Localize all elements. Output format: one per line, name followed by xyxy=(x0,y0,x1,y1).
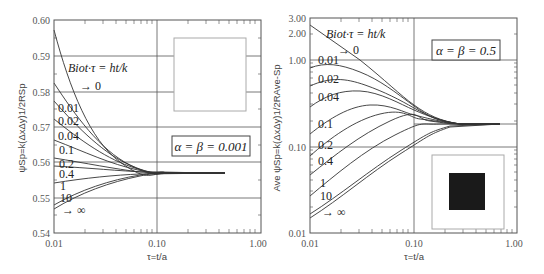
right-curve-label: 10 xyxy=(320,189,332,203)
left-xtick-label: 0.10 xyxy=(148,238,166,249)
right-arrow-label-inf: → ∞ xyxy=(322,205,346,219)
right-curve-labels: 0.01 0.02 0.04 0.1 0.2 0.4 1 10 → ∞ xyxy=(318,53,346,219)
left-x-tick-labels: 0.01 0.10 1.00 xyxy=(45,238,267,249)
right-xtick-label: 0.01 xyxy=(301,238,319,249)
right-arrow-label-0: → 0 xyxy=(338,43,359,57)
right-curve-label: 0.1 xyxy=(318,117,333,131)
left-ytick-label: 0.55 xyxy=(33,193,51,204)
left-ytick-label: 0.58 xyxy=(33,87,51,98)
right-curve-label: 1 xyxy=(320,176,326,190)
left-arrow-label-0: → 0 xyxy=(80,79,101,93)
right-curve-label: 0.04 xyxy=(318,90,339,104)
left-curve-label: 0.04 xyxy=(58,129,79,143)
left-x-axis-label: τ=t/a xyxy=(147,251,168,262)
left-ytick-label: 0.56 xyxy=(33,157,51,168)
right-inset-filled-square xyxy=(449,173,485,210)
right-x-tick-labels: 0.01 0.10 1.00 xyxy=(301,238,523,249)
right-ytick-label: 2.00 xyxy=(289,28,307,39)
left-curve-label: 0.1 xyxy=(59,143,74,157)
left-curve-label: 0.01 xyxy=(58,101,79,115)
right-x-axis-label: τ=t/a xyxy=(404,251,425,262)
left-ytick-label: 0.59 xyxy=(33,51,51,62)
right-curve-label: 0.02 xyxy=(318,72,339,86)
right-curve-0.1 xyxy=(310,105,500,134)
right-curve-label: 0.4 xyxy=(318,154,333,168)
right-xtick-label: 0.10 xyxy=(405,238,423,249)
right-curve-label: 0.2 xyxy=(318,138,333,152)
right-y-tick-labels: 3.00 2.00 1.00 0.10 0.01 xyxy=(289,13,307,239)
right-curve-0.2 xyxy=(310,112,500,156)
right-ytick-label: 1.00 xyxy=(289,55,307,66)
left-y-axis-label: ψSp=k(ΔxΔy)1/2RSp xyxy=(16,84,27,173)
left-y-tick-labels: 0.60 0.59 0.58 0.57 0.56 0.55 0.54 xyxy=(33,15,51,239)
right-xtick-label: 1.00 xyxy=(505,238,523,249)
left-param-text: α = β = 0.001 xyxy=(174,139,247,154)
right-y-axis-label: Ave ψSp=k(ΔxΔy)1/2RAve-Sp xyxy=(271,64,282,191)
right-biot-annotation: Biot·τ = ht/k xyxy=(326,27,386,41)
left-xtick-label: 0.01 xyxy=(45,238,63,249)
left-inset-square xyxy=(174,38,246,111)
left-curve-labels: 0.01 0.02 0.04 0.1 0.2 0.4 1 10 → ∞ xyxy=(58,101,86,217)
left-biot-annotation: Biot·τ = ht/k xyxy=(68,61,128,75)
figure: 0.60 0.59 0.58 0.57 0.56 0.55 0.54 0.01 … xyxy=(0,0,544,274)
left-xtick-label: 1.00 xyxy=(249,238,267,249)
right-ytick-label: 0.10 xyxy=(289,142,307,153)
right-chart: 3.00 2.00 1.00 0.10 0.01 0.01 0.10 1.00 … xyxy=(271,13,523,262)
left-curve-10 xyxy=(54,172,225,205)
left-arrow-label-inf: → ∞ xyxy=(62,203,86,217)
right-curve-label: 0.01 xyxy=(318,53,339,67)
left-ytick-label: 0.57 xyxy=(33,122,51,133)
left-curve-label: 0.02 xyxy=(58,114,79,128)
left-curve-1 xyxy=(54,173,225,183)
left-ytick-label: 0.60 xyxy=(33,15,51,26)
right-ytick-label: 3.00 xyxy=(289,13,307,24)
left-chart: 0.60 0.59 0.58 0.57 0.56 0.55 0.54 0.01 … xyxy=(16,15,267,262)
right-param-text: α = β = 0.5 xyxy=(436,43,497,58)
